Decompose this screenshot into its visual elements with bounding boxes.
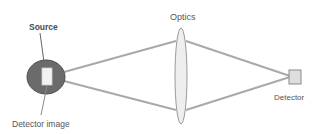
- detector-label: Detector: [274, 93, 305, 102]
- ray-source-to-lens-top: [64, 41, 176, 72]
- source-label: Source: [29, 22, 58, 32]
- optics-lens: [175, 28, 187, 124]
- ray-lens-top-to-detector: [186, 41, 290, 76]
- ray-source-to-lens-bottom: [64, 81, 176, 110]
- detector-image-rect: [42, 68, 52, 85]
- detector-image-label: Detector image: [12, 119, 70, 129]
- optical-diagram: Source Optics Detector Detector image: [0, 0, 326, 134]
- source-leader-line: [40, 33, 44, 62]
- detector-square: [289, 70, 301, 84]
- optics-label: Optics: [170, 12, 196, 22]
